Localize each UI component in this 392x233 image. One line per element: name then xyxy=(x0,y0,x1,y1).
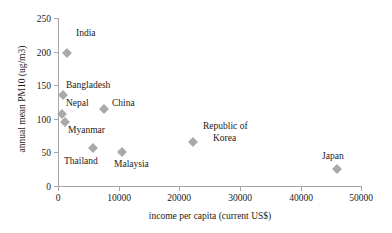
y-tick-150 xyxy=(54,85,58,86)
y-tick-250 xyxy=(54,18,58,19)
y-axis-line xyxy=(58,18,59,187)
y-tick-label-0: 0 xyxy=(17,183,51,193)
label-malaysia: Malaysia xyxy=(114,160,149,170)
data-point-japan xyxy=(332,164,342,174)
label-korea-line2: Korea xyxy=(213,134,236,144)
x-tick-label-20000: 20000 xyxy=(149,194,209,204)
y-tick-50 xyxy=(54,152,58,153)
x-axis-title: income per capita (current US$) xyxy=(58,211,362,221)
x-tick-40000 xyxy=(301,187,302,191)
label-korea-line1: Republic of xyxy=(203,122,248,132)
scatter-chart: 0 50 100 150 200 250 0 10000 20000 30000… xyxy=(0,0,392,233)
label-myanmar: Myanmar xyxy=(68,126,105,136)
label-thailand: Thailand xyxy=(64,157,98,167)
x-tick-0 xyxy=(58,187,59,191)
data-point-korea xyxy=(188,137,198,147)
x-axis-line xyxy=(58,186,362,187)
data-point-thailand xyxy=(88,143,98,153)
x-tick-label-40000: 40000 xyxy=(271,194,331,204)
data-point-india xyxy=(62,48,72,58)
x-tick-label-30000: 30000 xyxy=(210,194,270,204)
y-axis-title: annual mean PM10 (ug/m3) xyxy=(17,14,27,184)
label-china: China xyxy=(112,99,135,109)
label-japan: Japan xyxy=(322,152,344,162)
label-nepal: Nepal xyxy=(66,99,89,109)
x-tick-label-0: 0 xyxy=(28,194,88,204)
y-tick-200 xyxy=(54,52,58,53)
x-tick-50000 xyxy=(361,187,362,191)
x-tick-20000 xyxy=(179,187,180,191)
x-tick-label-50000: 50000 xyxy=(331,194,391,204)
data-point-malaysia xyxy=(117,147,127,157)
data-point-china xyxy=(99,104,109,114)
y-tick-100 xyxy=(54,119,58,120)
x-tick-30000 xyxy=(240,187,241,191)
x-tick-10000 xyxy=(119,187,120,191)
x-tick-label-10000: 10000 xyxy=(89,194,149,204)
label-bangladesh: Bangladesh xyxy=(66,81,110,91)
label-india: India xyxy=(76,29,96,39)
